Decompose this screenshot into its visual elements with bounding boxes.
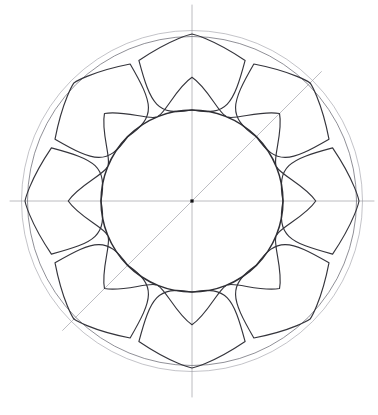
lotus-petal xyxy=(55,64,148,157)
rosette-drawing-canvas xyxy=(0,0,378,415)
rosette-figure xyxy=(0,0,378,415)
center-point-group xyxy=(190,199,193,202)
center-point-dot xyxy=(190,199,193,202)
lotus-petal xyxy=(236,245,329,338)
